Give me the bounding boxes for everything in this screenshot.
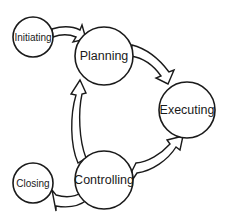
arrow-controlling-to-planning bbox=[71, 80, 86, 163]
arrow-planning-to-executing bbox=[131, 45, 174, 84]
node-label: Planning bbox=[80, 49, 129, 63]
node-label: Executing bbox=[160, 103, 215, 117]
node-executing: Executing bbox=[159, 82, 215, 138]
node-label: Closing bbox=[16, 178, 49, 189]
node-closing: Closing bbox=[13, 163, 53, 203]
node-controlling: Controlling bbox=[74, 151, 134, 209]
node-initiating: Initiating bbox=[13, 17, 53, 57]
node-label: Controlling bbox=[74, 173, 134, 187]
arrow-executing-controlling bbox=[132, 136, 183, 179]
node-label: Initiating bbox=[14, 32, 51, 43]
process-diagram: Initiating Planning Executing Controllin… bbox=[0, 0, 229, 221]
node-planning: Planning bbox=[75, 27, 133, 85]
